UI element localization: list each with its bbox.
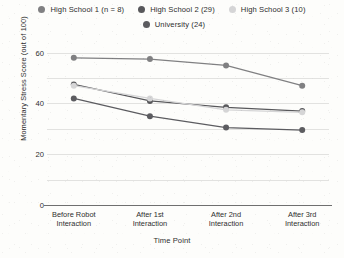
x-tick-label-line: After 2nd xyxy=(187,210,265,219)
x-tick-label: After 1stInteraction xyxy=(111,210,189,229)
x-tick-label-line: Interaction xyxy=(187,219,265,228)
x-tick-label-line: After 1st xyxy=(111,210,189,219)
data-point[interactable] xyxy=(299,127,305,133)
x-tick-label-line: Before Robot xyxy=(35,210,113,219)
series-line-0 xyxy=(74,58,302,86)
x-tick-label-line: Interaction xyxy=(35,219,113,228)
x-tick-label-line: After 3rd xyxy=(263,210,341,219)
x-tick-label: Before RobotInteraction xyxy=(35,210,113,229)
data-point[interactable] xyxy=(223,125,229,131)
x-tick-label-line: Interaction xyxy=(111,219,189,228)
series-line-2 xyxy=(74,86,302,113)
data-point[interactable] xyxy=(147,56,153,62)
data-point[interactable] xyxy=(71,95,77,101)
series-line-1 xyxy=(74,84,302,111)
plot-area: Momentary Stress Score (out of 100) 0204… xyxy=(0,0,344,258)
data-point[interactable] xyxy=(71,83,77,89)
chart-figure: High School 1 (n = 8)High School 2 (29)H… xyxy=(0,0,344,258)
data-point[interactable] xyxy=(223,107,229,113)
x-axis-title: Time Point xyxy=(0,236,344,245)
data-point[interactable] xyxy=(147,113,153,119)
x-tick-label: After 3rdInteraction xyxy=(263,210,341,229)
data-point[interactable] xyxy=(223,62,229,68)
data-point[interactable] xyxy=(299,83,305,89)
data-point[interactable] xyxy=(71,55,77,61)
data-point[interactable] xyxy=(299,109,305,115)
x-tick-label-line: Interaction xyxy=(263,219,341,228)
series-line-3 xyxy=(74,98,302,130)
data-point[interactable] xyxy=(147,95,153,101)
x-tick-label: After 2ndInteraction xyxy=(187,210,265,229)
